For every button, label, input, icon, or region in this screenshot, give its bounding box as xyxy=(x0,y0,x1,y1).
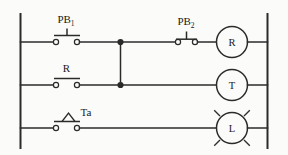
coil-r[interactable]: R xyxy=(217,27,248,58)
ta-delay-triangle-icon xyxy=(62,113,75,122)
rung-1: PB1 PB2 R xyxy=(21,13,268,58)
ladder-diagram-canvas: PB1 PB2 R xyxy=(0,0,288,155)
pb1-left-terminal xyxy=(53,39,58,44)
coil-t-label: T xyxy=(229,80,236,91)
contact-pb1-label: PB1 xyxy=(57,13,74,28)
contact-pb2[interactable]: PB2 xyxy=(175,15,197,45)
contact-pb2-label: PB2 xyxy=(177,15,194,30)
rung-3: Ta L xyxy=(21,106,268,146)
coil-r-label: R xyxy=(228,37,235,48)
contact-pb1[interactable]: PB1 xyxy=(53,13,80,45)
lamp-l[interactable]: L xyxy=(214,110,250,146)
contact-r-label: R xyxy=(63,62,71,74)
coil-t[interactable]: T xyxy=(217,70,248,101)
ladder-diagram-svg: PB1 PB2 R xyxy=(0,0,288,155)
contact-r[interactable]: R xyxy=(53,62,80,88)
lamp-l-label: L xyxy=(229,123,235,134)
contact-ta-label: Ta xyxy=(81,106,92,118)
ta-contact-left-terminal xyxy=(53,125,58,130)
rung-2: R T xyxy=(21,62,268,101)
pb2-left-terminal xyxy=(175,39,180,44)
contact-ta[interactable]: Ta xyxy=(53,106,91,131)
r-contact-left-terminal xyxy=(53,82,58,87)
